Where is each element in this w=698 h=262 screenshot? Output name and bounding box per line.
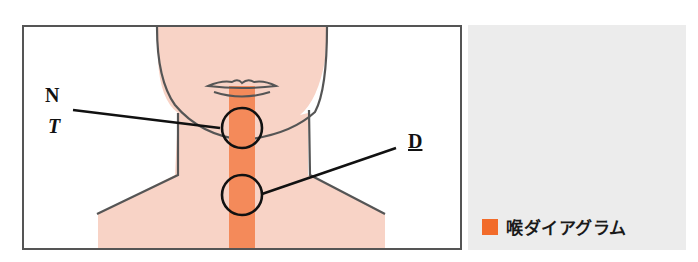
label-n: N [45, 84, 59, 107]
legend-swatch-icon [482, 219, 498, 235]
label-t: T [48, 115, 60, 138]
legend: 喉ダイアグラム [482, 214, 627, 239]
label-d: D [408, 130, 422, 153]
legend-text: 喉ダイアグラム [506, 214, 627, 239]
